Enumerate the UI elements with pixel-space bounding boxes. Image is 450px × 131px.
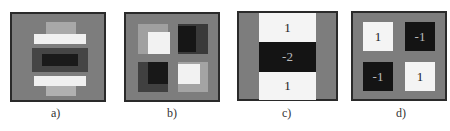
box-middle-negative: -2 [259, 42, 316, 72]
value-bottom-left: -1 [373, 69, 384, 85]
black-core-bottom-left [148, 62, 168, 84]
white-core-top-left [148, 32, 170, 54]
box-top-right-negative: -1 [405, 22, 435, 51]
box-top-left-positive: 1 [363, 22, 393, 51]
panel-d-box-dxy: 1 -1 -1 1 [351, 11, 447, 101]
panel-a-gaussian-dyy [10, 12, 106, 102]
panel-b-gaussian-dxy [124, 12, 220, 102]
box-top-positive: 1 [259, 13, 316, 42]
white-bar-bottom [34, 76, 86, 86]
value-top: 1 [284, 20, 291, 36]
value-top-right: -1 [415, 29, 426, 45]
box-bottom-right-positive: 1 [405, 62, 435, 91]
light-block-top [46, 22, 76, 34]
black-core [42, 54, 78, 66]
caption-b: b) [167, 106, 177, 121]
panel-c-box-dyy: 1 -2 1 [237, 11, 338, 101]
caption-c: c) [282, 106, 291, 121]
caption-d: d) [396, 106, 406, 121]
light-block-bottom [46, 86, 76, 96]
box-bottom-left-negative: -1 [363, 62, 393, 91]
caption-a: a) [51, 106, 60, 121]
white-bar-top [34, 34, 86, 44]
value-middle: -2 [282, 49, 293, 65]
value-bottom-right: 1 [417, 69, 424, 85]
box-bottom-positive: 1 [259, 72, 316, 100]
black-core-top-right [178, 26, 196, 52]
value-bottom: 1 [284, 78, 291, 94]
white-core-bottom-right [178, 64, 200, 84]
value-top-left: 1 [375, 29, 382, 45]
